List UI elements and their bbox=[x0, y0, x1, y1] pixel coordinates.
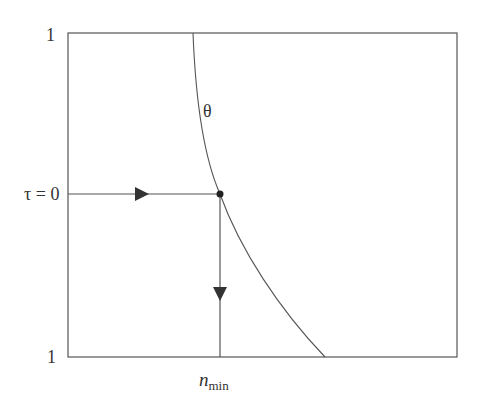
n-min-label: nmin bbox=[199, 370, 229, 392]
frame-box bbox=[68, 33, 457, 357]
y-bottom-label: 1 bbox=[47, 348, 56, 366]
theta-label: θ bbox=[203, 102, 212, 120]
intersection-point bbox=[217, 191, 224, 198]
tau-label: τ = 0 bbox=[24, 185, 59, 203]
down-arrow-icon bbox=[213, 287, 227, 301]
diagram-canvas bbox=[0, 0, 480, 407]
n-min-main: n bbox=[199, 369, 209, 390]
y-top-label: 1 bbox=[46, 26, 55, 44]
right-arrow-icon bbox=[135, 187, 149, 201]
theta-curve bbox=[193, 33, 325, 357]
n-min-subscript: min bbox=[209, 378, 229, 393]
